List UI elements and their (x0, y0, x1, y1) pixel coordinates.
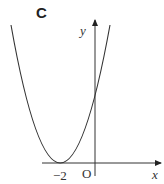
x-axis-label: x (151, 167, 158, 182)
y-axis-label: y (78, 23, 86, 38)
origin-label: O (82, 166, 91, 181)
graph: y x O −2 (0, 0, 164, 184)
tick-label-minus-2: −2 (53, 168, 67, 183)
